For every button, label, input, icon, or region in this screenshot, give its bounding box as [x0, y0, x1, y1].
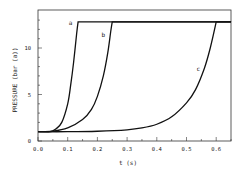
- x-tick-label: 0.2: [92, 146, 102, 152]
- y-tick-label: 10: [24, 45, 31, 51]
- x-axis-label: t (s): [119, 159, 137, 166]
- data-curves: [38, 22, 231, 132]
- curve-label-a: a: [69, 19, 73, 26]
- curve-c: [38, 22, 231, 132]
- pressure-time-chart: 0510 0.00.10.20.30.40.50.6 abc t (s) PRE…: [0, 0, 243, 171]
- y-axis-label: PRESSURE (bar (a)): [11, 47, 18, 112]
- x-tick-label: 0.3: [122, 146, 132, 152]
- curve-label-b: b: [102, 31, 106, 38]
- x-tick-label: 0.1: [63, 146, 73, 152]
- curve-labels: abc: [69, 19, 201, 73]
- curve-label-c: c: [197, 65, 201, 72]
- x-tick-label: 0.4: [152, 146, 163, 152]
- x-tick-label: 0.0: [33, 146, 43, 152]
- y-tick-label: 5: [28, 92, 31, 98]
- y-axis-ticks: 0510: [24, 20, 42, 144]
- x-tick-label: 0.6: [211, 146, 221, 152]
- curve-b: [38, 22, 231, 132]
- y-tick-label: 0: [28, 138, 31, 144]
- x-axis-ticks: 0.00.10.20.30.40.50.6: [33, 137, 231, 152]
- curve-a: [38, 22, 231, 132]
- x-tick-label: 0.5: [182, 146, 192, 152]
